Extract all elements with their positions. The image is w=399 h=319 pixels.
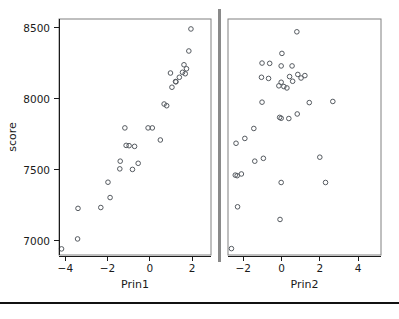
figure-container: −4−202Prin1−2024Prin27000750080008500sco… bbox=[0, 0, 399, 319]
data-point bbox=[323, 180, 328, 185]
x-tick-label: 2 bbox=[189, 262, 196, 274]
data-point bbox=[234, 141, 239, 146]
data-point bbox=[295, 30, 300, 35]
x-tick-label: 4 bbox=[355, 262, 362, 274]
scatter-plot-figure: −4−202Prin1−2024Prin27000750080008500sco… bbox=[0, 0, 399, 319]
data-point bbox=[235, 205, 240, 210]
data-point bbox=[290, 79, 295, 84]
data-point bbox=[243, 136, 248, 141]
data-point bbox=[99, 205, 104, 210]
data-point bbox=[260, 100, 265, 105]
data-point bbox=[123, 126, 128, 131]
data-point bbox=[307, 100, 312, 105]
data-point bbox=[132, 144, 137, 149]
y-tick-label: 8000 bbox=[23, 93, 50, 105]
data-point bbox=[279, 80, 284, 85]
y-tick-label: 7000 bbox=[23, 235, 50, 247]
data-point bbox=[279, 64, 284, 69]
data-point bbox=[182, 62, 187, 67]
y-axis-title: score bbox=[6, 122, 19, 152]
data-point bbox=[76, 206, 81, 211]
data-point bbox=[278, 217, 283, 222]
data-point bbox=[261, 156, 266, 161]
data-point bbox=[287, 74, 292, 79]
data-point bbox=[280, 51, 285, 56]
data-point bbox=[127, 143, 132, 148]
data-point bbox=[331, 99, 336, 104]
x-tick-label: −4 bbox=[58, 262, 74, 274]
data-point bbox=[260, 61, 265, 66]
data-point bbox=[259, 75, 264, 80]
data-point bbox=[59, 247, 64, 252]
data-point bbox=[170, 85, 175, 90]
data-point bbox=[303, 73, 308, 78]
y-axis: 7000750080008500score bbox=[6, 19, 59, 255]
data-point bbox=[239, 172, 244, 177]
data-point bbox=[130, 167, 135, 172]
data-point bbox=[187, 49, 192, 54]
x-axis-title: Prin2 bbox=[291, 278, 319, 291]
panel-prin1: −4−202Prin1 bbox=[58, 19, 211, 291]
data-point bbox=[106, 180, 111, 185]
data-point bbox=[279, 180, 284, 185]
panel-frame bbox=[59, 19, 211, 255]
data-point bbox=[189, 27, 194, 32]
data-point bbox=[136, 161, 141, 166]
data-point bbox=[287, 116, 292, 121]
data-point bbox=[168, 71, 173, 76]
data-point bbox=[252, 126, 257, 131]
data-point bbox=[318, 155, 323, 160]
data-point bbox=[75, 237, 80, 242]
data-point bbox=[277, 115, 282, 120]
x-tick-label: −2 bbox=[100, 262, 115, 274]
data-point bbox=[229, 246, 234, 251]
data-point bbox=[118, 159, 123, 164]
x-tick-label: 0 bbox=[278, 262, 285, 274]
y-tick-label: 7500 bbox=[23, 164, 50, 176]
x-tick-label: 0 bbox=[146, 262, 153, 274]
y-tick-label: 8500 bbox=[23, 22, 50, 34]
data-point bbox=[252, 159, 257, 164]
data-point bbox=[118, 167, 123, 172]
data-point bbox=[108, 195, 113, 200]
data-point bbox=[158, 138, 163, 143]
x-axis-title: Prin1 bbox=[121, 278, 149, 291]
panel-prin2: −2024Prin2 bbox=[228, 19, 381, 291]
x-tick-label: −2 bbox=[236, 262, 251, 274]
data-point bbox=[290, 64, 295, 69]
data-point bbox=[177, 75, 182, 80]
x-tick-label: 2 bbox=[316, 262, 323, 274]
data-point bbox=[266, 76, 271, 81]
data-point bbox=[295, 112, 300, 117]
data-point bbox=[267, 61, 272, 66]
panel-frame bbox=[228, 19, 381, 255]
